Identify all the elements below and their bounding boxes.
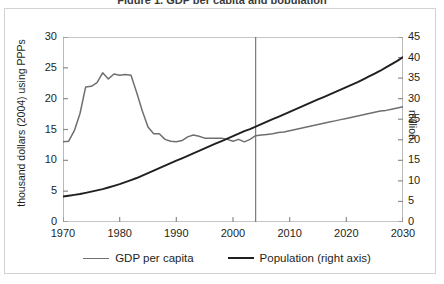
x-tick-label: 2010: [270, 228, 310, 239]
right-tick-label: 40: [408, 52, 430, 63]
x-tick-label: 1970: [43, 228, 83, 239]
series-line-2: [63, 57, 403, 196]
right-tick-label: 10: [408, 175, 430, 186]
x-tick-label: 1990: [156, 228, 196, 239]
right-tick-label: 30: [408, 93, 430, 104]
series-line-1: [63, 73, 403, 142]
right-tick-label: 35: [408, 72, 430, 83]
legend-item-2[interactable]: Population (right axis): [228, 252, 371, 264]
left-tick-label: 0: [35, 216, 57, 227]
right-tick-label: 20: [408, 134, 430, 145]
legend-swatch-icon: [83, 258, 109, 259]
legend-item-1[interactable]: GDP per capita: [83, 252, 193, 264]
right-tick-label: 15: [408, 154, 430, 165]
figure-container: Figure 1. GDP per capita and population …: [0, 0, 444, 284]
left-tick-label: 25: [35, 62, 57, 73]
right-tick-label: 5: [408, 195, 430, 206]
chart-legend: GDP per capitaPopulation (right axis): [5, 252, 444, 264]
x-tick-label: 2020: [326, 228, 366, 239]
right-tick-label: 45: [408, 31, 430, 42]
x-tick-label: 2000: [213, 228, 253, 239]
right-tick-label: 0: [408, 216, 430, 227]
left-tick-label: 15: [35, 124, 57, 135]
plot-area: [63, 37, 403, 222]
legend-label: Population (right axis): [260, 252, 371, 264]
left-tick-label: 30: [35, 31, 57, 42]
legend-swatch-icon: [228, 257, 254, 259]
x-tick-label: 2030: [383, 228, 423, 239]
left-tick-label: 10: [35, 154, 57, 165]
x-tick-label: 1980: [100, 228, 140, 239]
chart-svg: [63, 37, 403, 222]
clipped-figure-title: Figure 1. GDP per capita and population: [0, 0, 444, 4]
right-tick-label: 25: [408, 113, 430, 124]
left-axis-title: thousand dollars (2004) using PPPs: [15, 28, 27, 218]
left-tick-label: 5: [35, 185, 57, 196]
chart-panel: thousand dollars (2004) using PPPs milli…: [4, 8, 436, 274]
left-tick-label: 20: [35, 93, 57, 104]
legend-label: GDP per capita: [115, 252, 193, 264]
